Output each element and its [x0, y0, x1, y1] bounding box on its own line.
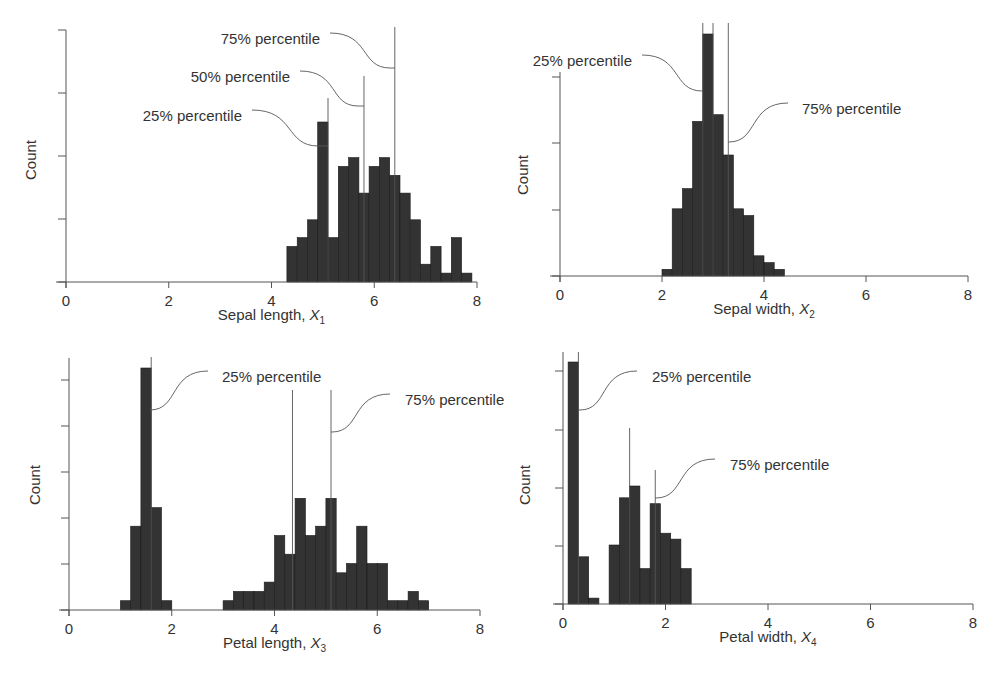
histogram-bar	[379, 158, 389, 282]
histogram-bar	[418, 601, 428, 610]
histogram-bar	[338, 166, 348, 282]
histogram-bar	[681, 569, 691, 604]
histogram-bar	[162, 601, 172, 610]
x-tick-label: 0	[559, 614, 567, 631]
histogram-bar	[388, 601, 398, 610]
histogram-bar	[693, 121, 703, 276]
histogram-bar	[328, 238, 338, 282]
histogram-bar	[141, 368, 151, 610]
histogram-bar	[275, 536, 285, 611]
y-axis-label: Count	[22, 139, 39, 180]
x-tick-label: 2	[661, 614, 669, 631]
histogram-bar	[295, 498, 305, 610]
y-axis-label: Count	[26, 464, 43, 505]
x-tick-label: 0	[62, 292, 70, 309]
percentile-label: 25% percentile	[652, 368, 751, 385]
x-axis-label: Sepal length, X1	[218, 306, 326, 326]
percentile-leader	[252, 110, 328, 146]
histogram-bar	[367, 564, 377, 611]
histogram-bar	[316, 526, 326, 610]
percentile-leader	[150, 371, 208, 410]
histogram-bar	[120, 601, 130, 610]
histogram-bar	[703, 34, 713, 276]
histogram-bar	[462, 273, 472, 282]
x-tick-label: 8	[964, 286, 972, 303]
x-axis-label: Petal length, X3	[223, 634, 327, 654]
percentile-label: 50% percentile	[191, 68, 290, 85]
iris-histogram-figure: 02468Sepal length, X1Count25% percentile…	[0, 0, 998, 686]
histogram-bar	[441, 273, 451, 282]
histogram-bar	[671, 539, 681, 604]
x-tick-label: 8	[969, 614, 977, 631]
histogram-bar	[151, 508, 161, 610]
histogram-bar	[672, 209, 682, 276]
histogram-bar	[640, 569, 650, 604]
histogram-bar	[336, 573, 346, 610]
percentile-label: 25% percentile	[143, 107, 242, 124]
histogram-bar	[244, 591, 254, 610]
histogram-bar	[223, 601, 233, 610]
percentile-label: 75% percentile	[802, 100, 901, 117]
panel-petal-length: 02468Petal length, X3Count25% percentile…	[26, 357, 504, 654]
histogram-bar	[398, 601, 408, 610]
histogram-bar	[578, 557, 588, 604]
panel-sepal-length: 02468Sepal length, X1Count25% percentile…	[22, 27, 481, 326]
histogram-bar	[357, 526, 367, 610]
percentile-leader	[642, 55, 703, 91]
x-tick-label: 6	[370, 292, 378, 309]
percentile-leader	[330, 33, 395, 68]
histogram-bar	[369, 166, 379, 282]
x-tick-label: 0	[65, 620, 73, 637]
histogram-bar	[346, 564, 356, 611]
panel-petal-width: 02468Petal width, X4Count25% percentile7…	[516, 352, 977, 648]
y-axis-label: Count	[516, 464, 533, 505]
percentile-leader	[331, 394, 390, 432]
histogram-bar	[764, 263, 774, 276]
x-tick-label: 6	[862, 286, 870, 303]
percentile-label: 25% percentile	[222, 368, 321, 385]
percentile-label: 25% percentile	[533, 52, 632, 69]
histogram-bar	[451, 238, 461, 282]
x-tick-label: 6	[373, 620, 381, 637]
histogram-bars	[120, 368, 428, 610]
histogram-bar	[589, 598, 599, 604]
x-tick-label: 2	[168, 620, 176, 637]
histogram-bar	[421, 264, 431, 282]
histogram-bar	[744, 216, 754, 277]
x-axis-label: Petal width, X4	[719, 628, 817, 648]
x-tick-label: 0	[556, 286, 564, 303]
histogram-bar	[410, 220, 420, 282]
percentile-leader	[300, 71, 364, 106]
histogram-bar	[774, 269, 784, 276]
histogram-bar	[254, 591, 264, 610]
percentile-label: 75% percentile	[221, 30, 320, 47]
histogram-bar	[308, 220, 318, 282]
percentile-label: 75% percentile	[405, 391, 504, 408]
histogram-bar	[431, 246, 441, 282]
histogram-bar	[733, 209, 743, 276]
histogram-bar	[568, 362, 578, 604]
x-tick-label: 2	[165, 292, 173, 309]
histogram-bar	[233, 591, 243, 610]
histogram-bar	[287, 246, 297, 282]
histogram-bar	[400, 193, 410, 282]
histogram-bar	[377, 564, 387, 611]
histogram-bar	[682, 189, 692, 276]
histogram-bar	[408, 591, 418, 610]
y-axis-label: Count	[514, 154, 531, 195]
histogram-bar	[619, 498, 629, 604]
histogram-bar	[305, 536, 315, 611]
percentile-leader	[578, 371, 637, 410]
histogram-bar	[609, 545, 619, 604]
histogram-bar	[754, 256, 764, 276]
histogram-bar	[264, 582, 274, 610]
x-axis-label: Sepal width, X2	[713, 300, 815, 320]
percentile-leader	[655, 459, 715, 498]
histogram-bar	[660, 533, 670, 604]
histogram-bar	[297, 238, 307, 282]
percentile-label: 75% percentile	[730, 456, 829, 473]
histogram-bar	[713, 115, 723, 276]
x-tick-label: 2	[658, 286, 666, 303]
histogram-bar	[285, 554, 295, 610]
histogram-bars	[662, 34, 784, 276]
